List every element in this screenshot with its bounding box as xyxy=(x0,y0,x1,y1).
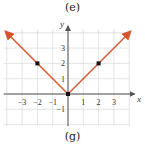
axes: xy xyxy=(4,19,141,126)
caption-bottom: (g) xyxy=(0,130,145,143)
svg-text:y: y xyxy=(59,19,64,29)
tick-labels: −3−2−1123−1123 xyxy=(18,44,116,114)
svg-text:3: 3 xyxy=(61,44,65,53)
svg-text:x: x xyxy=(136,94,141,104)
grid-lines xyxy=(4,30,129,126)
svg-text:2: 2 xyxy=(97,98,101,107)
svg-text:2: 2 xyxy=(61,59,65,68)
svg-text:−1: −1 xyxy=(56,105,65,114)
svg-text:3: 3 xyxy=(112,98,116,107)
svg-text:1: 1 xyxy=(61,75,65,84)
svg-text:−2: −2 xyxy=(33,98,42,107)
svg-text:−3: −3 xyxy=(18,98,27,107)
svg-text:1: 1 xyxy=(81,98,85,107)
